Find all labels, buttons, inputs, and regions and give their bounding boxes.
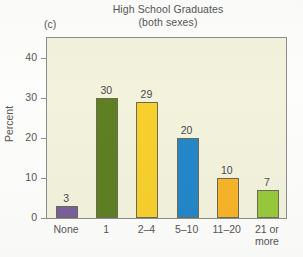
bar-value-label-0: 3 — [46, 192, 86, 204]
y-tick-mark — [41, 98, 46, 99]
bar-value-label-5: 7 — [247, 176, 287, 188]
bar-2 — [136, 102, 158, 218]
bar-3 — [177, 138, 199, 218]
y-tick-label: 30 — [25, 91, 37, 103]
y-tick-20: 20 — [0, 138, 46, 139]
y-tick-mark — [41, 218, 46, 219]
y-tick-mark — [41, 178, 46, 179]
chart-title-line-1: High School Graduates — [83, 3, 253, 16]
bar-0 — [56, 206, 78, 218]
y-tick-label: 20 — [25, 131, 37, 143]
bar-4 — [217, 178, 239, 218]
x-tick-label-1: 1 — [84, 223, 128, 235]
y-tick-10: 10 — [0, 178, 46, 179]
x-tick-label-5: 21 or more — [245, 223, 289, 247]
panel-label: (c) — [44, 18, 56, 30]
y-tick-mark — [41, 138, 46, 139]
chart-title-line-2: (both sexes) — [83, 16, 253, 29]
x-tick-label-4: 11–20 — [205, 223, 249, 235]
y-tick-label: 10 — [25, 171, 37, 183]
y-tick-label: 40 — [25, 51, 37, 63]
x-tick-label-2: 2–4 — [124, 223, 168, 235]
bar-value-label-4: 10 — [207, 164, 247, 176]
y-tick-label: 0 — [31, 211, 37, 223]
x-tick-label-3: 5–10 — [165, 223, 209, 235]
bar-value-label-2: 29 — [126, 88, 166, 100]
figure-container: High School Graduates (both sexes) (c) P… — [0, 0, 303, 257]
x-tick-label-0: None — [44, 223, 88, 235]
bar-value-label-3: 20 — [167, 124, 207, 136]
y-tick-40: 40 — [0, 58, 46, 59]
y-tick-30: 30 — [0, 98, 46, 99]
bar-5 — [257, 190, 279, 218]
bar-1 — [96, 98, 118, 218]
chart-title: High School Graduates (both sexes) — [83, 3, 253, 29]
y-tick-mark — [41, 58, 46, 59]
y-axis-title: Percent — [3, 94, 15, 154]
y-tick-0: 0 — [0, 218, 46, 219]
bar-value-label-1: 30 — [86, 84, 126, 96]
